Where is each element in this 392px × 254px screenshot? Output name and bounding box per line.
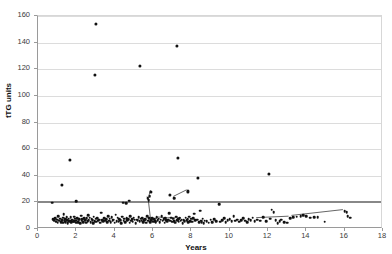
scatter-chart: tTG units 020406080100120140160 02468101… [0,0,392,254]
x-tick-label: 14 [295,232,315,240]
connector-line [256,216,288,217]
connector-line [291,210,342,216]
y-tick-mark [34,122,37,123]
y-tick-label: 120 [4,64,30,72]
x-tick-label: 18 [372,232,392,240]
connector-line [147,190,150,198]
x-tick-mark [344,228,345,231]
x-tick-mark [152,228,153,231]
y-tick-label: 140 [4,38,30,46]
x-tick-mark [382,228,383,231]
x-tick-mark [229,228,230,231]
x-tick-label: 2 [65,232,85,240]
y-tick-mark [34,95,37,96]
plot-area [37,15,382,228]
connector-line [173,190,186,197]
connector-lines [38,16,381,227]
x-tick-label: 4 [104,232,124,240]
y-tick-mark [34,201,37,202]
chart-title [0,0,392,2]
x-tick-mark [75,228,76,231]
y-tick-label: 60 [4,144,30,152]
y-tick-label: 0 [4,224,30,232]
y-tick-label: 80 [4,118,30,126]
x-axis-title: Years [0,243,392,252]
x-tick-label: 16 [334,232,354,240]
x-tick-mark [190,228,191,231]
y-tick-label: 100 [4,91,30,99]
y-tick-mark [34,148,37,149]
y-tick-mark [34,175,37,176]
x-tick-label: 8 [180,232,200,240]
connector-line [148,199,181,220]
y-tick-label: 160 [4,11,30,19]
x-tick-mark [114,228,115,231]
y-tick-label: 20 [4,197,30,205]
y-tick-mark [34,68,37,69]
x-tick-label: 0 [27,232,47,240]
y-tick-label: 40 [4,171,30,179]
x-tick-mark [267,228,268,231]
y-tick-mark [34,42,37,43]
x-tick-label: 6 [142,232,162,240]
y-tick-mark [34,15,37,16]
x-tick-label: 10 [219,232,239,240]
x-tick-mark [305,228,306,231]
x-tick-label: 12 [257,232,277,240]
x-tick-mark [37,228,38,231]
